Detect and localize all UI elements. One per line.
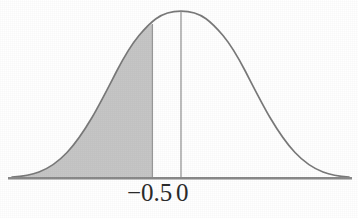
normal-distribution-figure: −0.5 0 xyxy=(0,0,358,218)
axis-tick-label-neg-half: −0.5 xyxy=(127,180,172,205)
axis-tick-label-zero: 0 xyxy=(176,180,189,205)
